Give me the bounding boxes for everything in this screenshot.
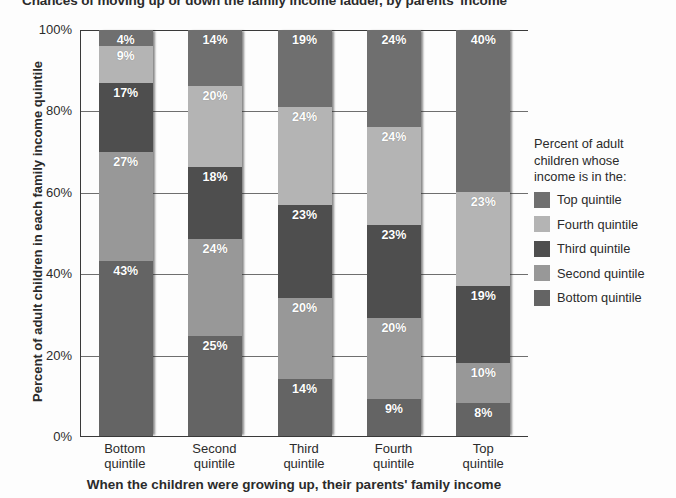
legend-item-label: Fourth quintile [557, 217, 638, 232]
legend-item: Top quintile [534, 192, 676, 208]
x-tick-label: Thirdquintile [259, 441, 349, 471]
bar-segment-label: 17% [113, 83, 138, 100]
x-tick-label: Secondquintile [170, 441, 260, 471]
chart-page: Chances of moving up or down the family … [0, 0, 676, 498]
x-tick-label: Fourthquintile [349, 441, 439, 471]
y-axis-title: Percent of adult children in each family… [30, 22, 45, 442]
bar-segment: 43% [99, 261, 153, 436]
legend-title-line-3: income is in the: [534, 169, 626, 184]
legend-item: Bottom quintile [534, 290, 676, 306]
bar-segment: 23% [278, 205, 332, 298]
x-tick-label-line-2: quintile [170, 456, 260, 471]
bar-series-container: 4%9%17%27%43%14%20%18%24%25%19%24%23%20%… [81, 30, 528, 436]
bar-stack: 24%24%23%20%9% [367, 30, 421, 436]
y-tick-label: 60% [12, 185, 72, 200]
legend-item: Fourth quintile [534, 216, 676, 232]
bar-segment-label: 25% [203, 336, 228, 353]
legend-swatch-icon [534, 290, 550, 306]
x-tick-label-line-1: Top [438, 441, 528, 456]
bar-segment: 9% [99, 46, 153, 83]
bar-segment-label: 18% [203, 167, 228, 184]
y-tick-label: 40% [12, 266, 72, 281]
plot-area: 4%9%17%27%43%14%20%18%24%25%19%24%23%20%… [80, 30, 528, 437]
legend-swatch-icon [534, 241, 550, 257]
legend-title-line-2: children whose [534, 153, 619, 168]
bar-segment: 20% [188, 86, 242, 166]
legend-item: Third quintile [534, 241, 676, 257]
bar-column: 14%20%18%24%25% [170, 30, 259, 436]
bar-segment: 24% [188, 239, 242, 335]
legend-item: Second quintile [534, 265, 676, 281]
bar-segment: 23% [367, 225, 421, 318]
bar-stack: 4%9%17%27%43% [99, 30, 153, 436]
bar-segment-label: 23% [471, 192, 496, 209]
bar-segment-label: 9% [117, 46, 135, 63]
bar-segment-label: 23% [292, 205, 317, 222]
bar-segment: 9% [367, 399, 421, 436]
chart-title: Chances of moving up or down the family … [22, 0, 622, 8]
bar-segment: 20% [278, 298, 332, 379]
legend-item-label: Top quintile [557, 192, 622, 207]
bar-segment: 17% [99, 83, 153, 152]
bar-segment: 25% [188, 336, 242, 437]
x-tick-label-line-2: quintile [349, 456, 439, 471]
legend-title-line-1: Percent of adult [534, 136, 624, 151]
bar-segment-label: 14% [292, 379, 317, 396]
x-tick-label-line-1: Bottom [80, 441, 170, 456]
bar-segment-label: 20% [292, 298, 317, 315]
legend-swatch-icon [534, 192, 550, 208]
bar-segment-label: 24% [381, 127, 406, 144]
bar-segment: 24% [367, 127, 421, 224]
bar-segment-label: 27% [113, 152, 138, 169]
bar-segment: 24% [367, 30, 421, 127]
bar-segment-label: 43% [113, 261, 138, 278]
y-tick-label: 20% [12, 348, 72, 363]
bar-segment-label: 4% [117, 30, 135, 47]
bar-segment-label: 19% [471, 286, 496, 303]
y-tick-label: 0% [12, 429, 72, 444]
bar-stack: 40%23%19%10%8% [456, 30, 510, 436]
bar-segment: 4% [99, 30, 153, 46]
bar-segment: 24% [278, 107, 332, 204]
legend-swatch-icon [534, 265, 550, 281]
bar-segment: 19% [456, 286, 510, 363]
legend-item-label: Second quintile [557, 266, 645, 281]
legend-item-label: Bottom quintile [557, 290, 642, 305]
bar-segment: 19% [278, 30, 332, 107]
x-tick-label-line-2: quintile [80, 456, 170, 471]
bar-column: 4%9%17%27%43% [81, 30, 170, 436]
bar-segment-label: 19% [292, 30, 317, 47]
bar-segment-label: 40% [471, 30, 496, 47]
bar-column: 19%24%23%20%14% [260, 30, 349, 436]
legend-swatch-icon [534, 216, 550, 232]
bar-segment-label: 23% [381, 225, 406, 242]
bar-segment: 20% [367, 318, 421, 399]
bar-column: 24%24%23%20%9% [349, 30, 438, 436]
legend-title: Percent of adult children whose income i… [534, 136, 676, 186]
x-tick-label-line-1: Third [259, 441, 349, 456]
bar-segment: 8% [456, 403, 510, 435]
bar-segment: 18% [188, 167, 242, 239]
bar-segment: 14% [188, 30, 242, 86]
bar-segment: 40% [456, 30, 510, 192]
bar-segment-label: 24% [292, 107, 317, 124]
x-tick-label-line-2: quintile [438, 456, 528, 471]
bar-segment-label: 24% [203, 239, 228, 256]
bar-segment-label: 20% [203, 86, 228, 103]
x-tick-label: Bottomquintile [80, 441, 170, 471]
x-tick-label-line-1: Fourth [349, 441, 439, 456]
legend: Percent of adult children whose income i… [534, 136, 676, 314]
x-tick-label-line-2: quintile [259, 456, 349, 471]
x-tick-label: Topquintile [438, 441, 528, 471]
bar-segment-label: 24% [381, 30, 406, 47]
bar-segment-label: 14% [203, 30, 228, 47]
bar-segment-label: 8% [474, 403, 492, 420]
bar-stack: 14%20%18%24%25% [188, 30, 242, 436]
bar-segment-label: 10% [471, 363, 496, 380]
x-axis-title: When the children were growing up, their… [44, 477, 544, 492]
y-tick-label: 80% [12, 103, 72, 118]
legend-items: Top quintileFourth quintileThird quintil… [534, 192, 676, 306]
x-axis-tick-labels: BottomquintileSecondquintileThirdquintil… [80, 441, 528, 471]
x-tick-label-line-1: Second [170, 441, 260, 456]
bar-segment-label: 20% [381, 318, 406, 335]
